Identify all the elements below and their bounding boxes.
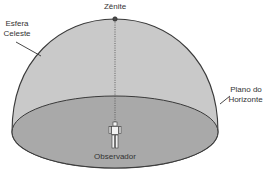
sphere-leader-line <box>16 42 41 56</box>
zenith-label: Zênite <box>100 2 130 12</box>
celestial-sphere-label-line2: Celeste <box>2 29 32 39</box>
celestial-sphere-label-line1: Esfera <box>2 19 32 29</box>
zenith-point <box>113 17 117 21</box>
horizon-plane-label-line1: Plano do <box>227 85 265 95</box>
observer-label: Observador <box>90 152 140 162</box>
horizon-plane-label-line2: Horizonte <box>226 95 265 105</box>
